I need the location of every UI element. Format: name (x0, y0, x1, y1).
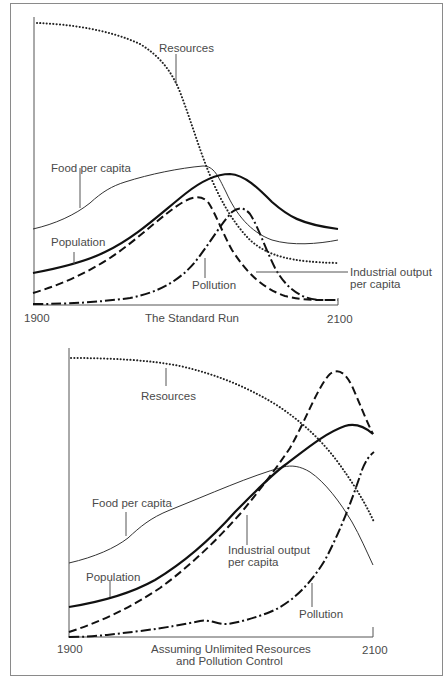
x-tick-2100: 2100 (362, 644, 388, 656)
figure: Resources Food per capita Population Pol… (0, 0, 448, 688)
label-pollution: Pollution (192, 279, 236, 291)
label-industrial-output-1: Industrial output (350, 266, 433, 278)
chart-title-line-1: Assuming Unlimited Resources (151, 643, 311, 655)
chart-title-standard-run: The Standard Run (145, 312, 239, 324)
series-resources (37, 23, 338, 263)
label-resources: Resources (141, 390, 196, 402)
chart-title-line-2: and Pollution Control (176, 655, 283, 667)
series-food-per-capita (69, 466, 373, 565)
label-population: Population (86, 571, 140, 583)
x-tick-1900: 1900 (57, 643, 83, 655)
series-industrial-output (33, 197, 338, 300)
x-tick-1900: 1900 (24, 312, 50, 324)
series-pollution (33, 208, 338, 304)
chart-unlimited-resources: Resources Food per capita Population Ind… (57, 348, 388, 667)
label-industrial-output-1: Industrial output (228, 544, 311, 556)
label-resources: Resources (159, 42, 214, 54)
label-population: Population (51, 236, 105, 248)
x-tick-2100: 2100 (327, 313, 353, 325)
series-population (33, 174, 338, 273)
label-pollution: Pollution (299, 608, 343, 620)
label-industrial-output-2: per capita (350, 278, 401, 290)
label-industrial-output-2: per capita (228, 556, 279, 568)
series-food-per-capita (33, 166, 338, 244)
label-food-per-capita: Food per capita (92, 497, 173, 509)
chart-standard-run: Resources Food per capita Population Pol… (24, 17, 433, 325)
label-food-per-capita: Food per capita (51, 162, 132, 174)
